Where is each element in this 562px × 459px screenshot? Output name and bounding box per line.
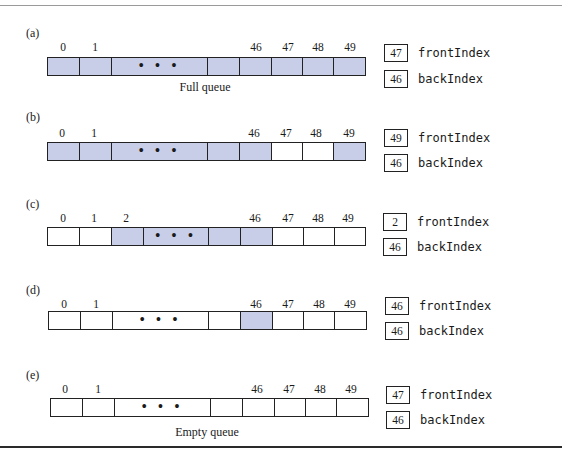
array-cell-47 [271, 57, 303, 76]
front-index-label: frontIndex [420, 386, 492, 404]
top-rule [0, 5, 562, 6]
array-cell-48 [302, 142, 334, 161]
panel-label: (b) [26, 110, 40, 125]
back-index-label: backIndex [418, 154, 483, 172]
panel-label: (d) [26, 283, 40, 298]
index-label: 46 [246, 298, 266, 310]
index-label: 2 [116, 212, 136, 224]
index-label: 49 [341, 383, 361, 395]
array-cell-48 [305, 398, 337, 417]
array-cell-46 [242, 398, 275, 417]
front-index-value: 49 [384, 129, 408, 147]
back-index-value: 46 [383, 238, 407, 256]
array-cell-45 [208, 227, 241, 246]
array-cell-47 [274, 398, 306, 417]
array-cell-46 [239, 57, 272, 76]
array-cell-49 [333, 142, 366, 161]
index-label: 47 [278, 298, 298, 310]
queue-caption: Full queue [145, 80, 265, 95]
panel-label: (c) [26, 197, 39, 212]
front-index-value: 47 [386, 386, 410, 404]
array-cell-45 [207, 142, 240, 161]
index-label: 48 [308, 212, 328, 224]
array-cell-49 [334, 311, 367, 330]
array-cell-0 [47, 227, 80, 246]
array-cell-0 [47, 142, 80, 161]
front-index-label: frontIndex [419, 297, 491, 315]
array-cell-46 [239, 142, 272, 161]
index-label: 0 [54, 298, 74, 310]
front-index-label: frontIndex [418, 44, 490, 62]
array-cell-45 [207, 57, 240, 76]
back-index-value: 46 [384, 70, 408, 88]
queue-caption: Empty queue [147, 425, 267, 440]
index-label: 0 [53, 41, 73, 53]
array-cell-49 [334, 227, 366, 246]
array-cell-1 [79, 57, 112, 76]
array-cell-46 [240, 227, 273, 246]
index-label: 1 [88, 383, 108, 395]
array-cell-47 [272, 227, 304, 246]
index-label: 46 [246, 41, 266, 53]
array-cell-46 [240, 311, 273, 330]
front-index-label: frontIndex [418, 129, 490, 147]
index-label: 46 [245, 212, 265, 224]
ellipsis-icon: • • • [113, 312, 208, 328]
array-cell-47 [272, 311, 304, 330]
array-cell-2 [111, 227, 144, 246]
array-cell-47 [271, 142, 303, 161]
panel-label: (a) [26, 26, 39, 41]
index-label: 49 [340, 41, 360, 53]
array-cell-ellipsis: • • • [112, 311, 209, 330]
array-cell-45 [210, 398, 243, 417]
index-label: 0 [55, 383, 75, 395]
index-label: 49 [340, 298, 360, 310]
index-label: 1 [86, 298, 106, 310]
back-index-label: backIndex [418, 70, 483, 88]
back-index-value: 46 [385, 322, 409, 340]
index-label: 49 [338, 212, 358, 224]
front-index-value: 2 [383, 213, 407, 231]
index-label: 47 [278, 212, 298, 224]
array-cell-49 [336, 398, 369, 417]
array-cell-49 [333, 57, 366, 76]
front-index-value: 46 [385, 297, 409, 315]
index-label: 1 [84, 212, 104, 224]
index-label: 0 [52, 127, 72, 139]
index-label: 49 [339, 127, 359, 139]
ellipsis-icon: • • • [115, 399, 210, 415]
index-label: 48 [309, 298, 329, 310]
front-index-value: 47 [384, 44, 408, 62]
array-cell-1 [80, 311, 113, 330]
front-index-label: frontIndex [417, 213, 489, 231]
back-index-value: 46 [384, 154, 408, 172]
index-label: 48 [308, 41, 328, 53]
index-label: 47 [278, 41, 298, 53]
panel-label: (e) [26, 368, 39, 383]
array-cell-ellipsis: • • • [143, 227, 209, 246]
array-cell-0 [47, 57, 80, 76]
array-cell-0 [50, 398, 83, 417]
index-label: 48 [310, 383, 330, 395]
array-cell-ellipsis: • • • [111, 57, 208, 76]
array-cell-1 [79, 227, 112, 246]
array-cell-ellipsis: • • • [114, 398, 211, 417]
back-index-value: 46 [386, 411, 410, 429]
array-cell-48 [303, 227, 335, 246]
index-label: 1 [84, 127, 104, 139]
array-cell-45 [208, 311, 241, 330]
array-cell-ellipsis: • • • [111, 142, 208, 161]
array-cell-48 [303, 311, 335, 330]
bottom-rule [0, 446, 562, 448]
index-label: 48 [306, 127, 326, 139]
array-cell-1 [79, 142, 112, 161]
index-label: 46 [244, 127, 264, 139]
back-index-label: backIndex [419, 322, 484, 340]
ellipsis-icon: • • • [112, 143, 207, 159]
index-label: 0 [53, 212, 73, 224]
ellipsis-icon: • • • [144, 228, 208, 244]
ellipsis-icon: • • • [112, 58, 207, 74]
back-index-label: backIndex [420, 411, 485, 429]
array-cell-0 [48, 311, 81, 330]
index-label: 46 [247, 383, 267, 395]
